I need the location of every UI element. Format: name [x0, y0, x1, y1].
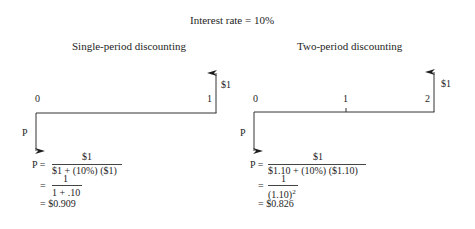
future-value-label: $1	[221, 79, 231, 90]
formula-equals: =	[40, 180, 46, 191]
present-value-label: P	[240, 127, 246, 138]
period-label-1: 1	[207, 93, 212, 104]
formula-result: = $0.826	[258, 198, 294, 209]
formula-numerator: $1	[313, 151, 323, 162]
period-label-0: 0	[35, 93, 40, 104]
formula-lhs: P =	[250, 159, 263, 170]
future-value-label: $1	[441, 78, 451, 89]
formula-lhs: P =	[32, 159, 45, 170]
formula-denominator: $1 + (10%) ($1)	[52, 165, 117, 176]
present-value-label: P	[22, 127, 28, 138]
period-label-0: 0	[253, 93, 258, 104]
period-label-1: 1	[343, 93, 348, 104]
formula-denominator: 1 + .10	[52, 187, 80, 198]
formula-numerator: 1	[281, 173, 286, 184]
formula-numerator: 1	[63, 173, 68, 184]
right-timeline	[254, 72, 435, 151]
fraction-bar	[268, 185, 298, 186]
fraction-bar	[52, 185, 82, 186]
formula-equals: =	[258, 180, 264, 191]
denominator-exponent: 2	[292, 188, 296, 196]
left-timeline	[36, 73, 217, 151]
formula-numerator: $1	[82, 151, 92, 162]
period-label-2: 2	[425, 93, 430, 104]
formula-result: = $0.909	[40, 198, 76, 209]
